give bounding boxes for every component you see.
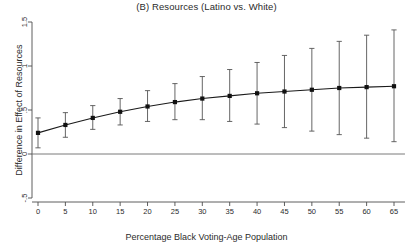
y-axis-tick-label: -.5 <box>20 194 29 203</box>
x-axis-tick-label: 15 <box>116 207 124 216</box>
data-point-marker <box>392 84 396 88</box>
data-point-marker <box>255 91 259 95</box>
x-axis-tick-label: 25 <box>171 207 179 216</box>
y-axis-tick-label: .5 <box>20 107 29 113</box>
data-point-marker <box>337 86 341 90</box>
x-axis-tick-label: 10 <box>89 207 97 216</box>
data-point-marker <box>118 110 122 114</box>
x-axis-tick-label: 20 <box>143 207 151 216</box>
data-point-marker <box>36 131 40 135</box>
data-point-marker <box>173 100 177 104</box>
x-axis-tick-label: 45 <box>280 207 288 216</box>
x-axis-tick-label: 65 <box>390 207 398 216</box>
x-axis-tick-label: 35 <box>226 207 234 216</box>
chart-figure: (B) Resources (Latino vs. White) Differe… <box>0 0 413 245</box>
x-axis-tick-label: 0 <box>36 207 40 216</box>
data-point-marker <box>365 85 369 89</box>
data-line <box>38 86 394 133</box>
x-axis-tick-label: 5 <box>63 207 67 216</box>
x-axis-tick-label: 60 <box>362 207 370 216</box>
x-axis-tick-label: 40 <box>253 207 261 216</box>
y-axis-tick-label: 0 <box>20 152 29 156</box>
data-point-marker <box>145 104 149 108</box>
data-point-marker <box>91 116 95 120</box>
data-markers-group <box>36 84 396 135</box>
data-point-marker <box>200 96 204 100</box>
error-bars-group <box>35 30 396 148</box>
data-point-marker <box>282 89 286 93</box>
x-axis-tick-label: 55 <box>335 207 343 216</box>
plot-area: -.50.511.505101520253035404550556065 <box>0 0 413 245</box>
y-axis-tick-label: 1.5 <box>20 17 29 27</box>
x-axis-tick-label: 30 <box>198 207 206 216</box>
x-axis-tick-label: 50 <box>308 207 316 216</box>
data-point-marker <box>63 123 67 127</box>
data-point-marker <box>228 94 232 98</box>
y-axis-tick-label: 1 <box>20 64 29 68</box>
data-point-marker <box>310 88 314 92</box>
